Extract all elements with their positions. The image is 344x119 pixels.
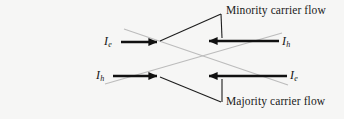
minority-leader-group: [160, 14, 222, 41]
carrier-flow-figure: Minority carrier flow Majority carrier f…: [0, 0, 344, 119]
minority-carrier-flow-caption: Minority carrier flow: [226, 4, 326, 16]
current-label-bottom-right: Ie: [290, 68, 298, 83]
majority-leader-diagonal: [160, 77, 221, 102]
current-subscript: h: [286, 40, 290, 49]
current-label-top-left: Ie: [104, 34, 112, 49]
current-label-top-right: Ih: [282, 34, 290, 49]
minority-leader-vertical: [221, 14, 222, 38]
current-subscript: e: [294, 74, 298, 83]
minority-leader-diagonal: [160, 14, 221, 41]
current-label-bottom-left: Ih: [96, 68, 104, 83]
majority-leader-group: [160, 77, 222, 102]
current-subscript: e: [108, 40, 112, 49]
current-subscript: h: [100, 74, 104, 83]
majority-carrier-flow-caption: Majority carrier flow: [226, 95, 325, 107]
